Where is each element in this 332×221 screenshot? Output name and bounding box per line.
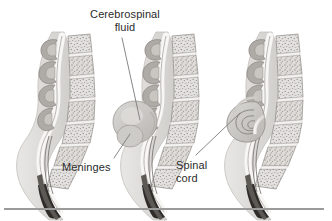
bottom-rule [4,208,324,210]
label-meninges: Meninges [62,161,111,174]
panel-myelomeningocele [225,32,303,220]
anatomy-illustration [0,0,332,221]
label-spinal-cord: Spinal cord [176,159,207,184]
label-cerebrospinal-fluid: Cerebrospinal fluid [84,8,166,33]
panel-meningocele [113,32,199,220]
panel-normal-spine [17,32,95,220]
spina-bifida-figure: Cerebrospinal fluid Meninges Spinal cord… [0,0,332,221]
